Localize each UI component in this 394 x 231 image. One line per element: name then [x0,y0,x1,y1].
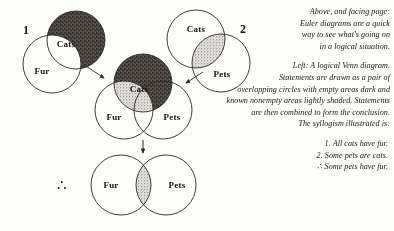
caption-line: Euler diagrams are a quick [218,18,390,30]
figure-page: 1 Cats Fur 2 Cats Pets [0,0,394,231]
combined-label-pets: Pets [164,112,181,122]
caption-block-2: Left: A logical Venn diagram. Statements… [218,60,390,130]
caption-column: Above, and facing page: Euler diagrams a… [218,6,390,173]
combined-label-fur: Fur [106,112,121,122]
caption-line: The syllogism illustrated is: [218,118,390,130]
step1-label-cats: Cats [57,39,76,49]
syllogism-premise-1: 1. All cats have fur. [218,138,390,150]
therefore-symbol: ∴ [57,177,67,193]
step1-label-fur: Fur [34,66,49,76]
caption-line: Left: A logical Venn diagram. [218,60,390,72]
caption-line: way to see what's going on [218,29,390,41]
step-1-number: 1 [23,23,29,37]
step1-dark-region [40,4,115,79]
caption-line: overlapping circles with empty areas dar… [218,84,390,96]
syllogism-list: 1. All cats have fur. 2. Some pets are c… [218,138,390,173]
conclusion-label-fur: Fur [103,180,118,190]
caption-block-1: Above, and facing page: Euler diagrams a… [218,6,390,52]
caption-line: known nonempty areas lightly shaded. Sta… [218,95,390,107]
diagram-step-1: 1 Cats Fur [23,4,115,93]
caption-line: in a logical situation. [218,41,390,53]
combined-label-cats: Cats [130,84,149,94]
caption-line: Above, and facing page: [218,6,390,18]
step2-label-cats: Cats [187,24,206,34]
conclusion-label-pets: Pets [169,180,186,190]
syllogism-premise-2: 2. Some pets are cats. [218,150,390,162]
caption-line: Statements are drawn as a pair of [218,72,390,84]
caption-paragraph-gap [218,52,390,60]
syllogism-gap [218,130,390,138]
syllogism-conclusion: ∴ Some pets have fur. [218,161,390,173]
caption-line: are then combined to form the conclusion… [218,107,390,119]
diagram-conclusion: ∴ Fur Pets [57,155,196,215]
